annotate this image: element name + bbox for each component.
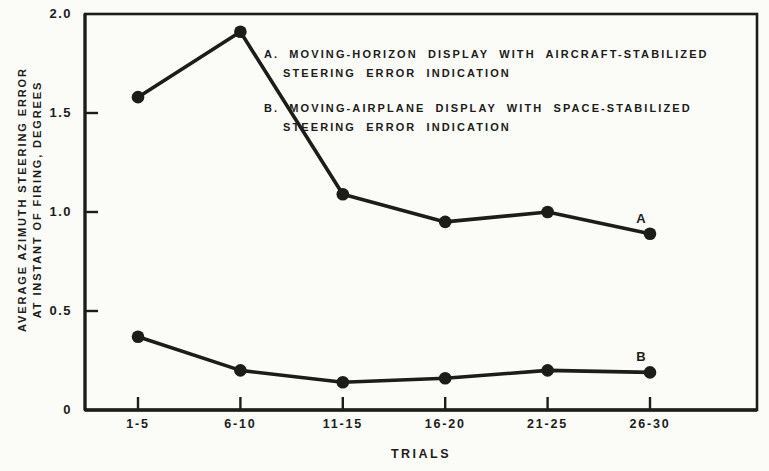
series-a-label: A [636, 211, 646, 226]
y-tick-label: 0 [28, 402, 72, 418]
x-tick-label: 1-5 [93, 417, 183, 432]
series-b-label: B [636, 349, 645, 364]
series-b-point [132, 330, 145, 343]
y-tick-label: 1.0 [28, 204, 72, 220]
x-tick-label: 26-30 [605, 417, 695, 432]
x-tick-label: 16-20 [400, 417, 490, 432]
y-tick-label: 2.0 [28, 6, 72, 22]
series-b-point [644, 366, 657, 379]
series-a-point [132, 91, 145, 104]
x-tick-label: 6-10 [195, 417, 285, 432]
legend-entry-a: A. MOVING-HORIZON DISPLAY WITH AIRCRAFT-… [264, 45, 756, 82]
y-tick-label: 1.5 [28, 105, 72, 121]
y-axis-title-line1: AVERAGE AZIMUTH STEERING ERROR [15, 30, 30, 370]
x-tick-label: 11-15 [298, 417, 388, 432]
y-tick-label: 0.5 [28, 303, 72, 319]
series-b-point [439, 372, 452, 385]
legend-entry-b: B. MOVING-AIRPLANE DISPLAY WITH SPACE-ST… [264, 99, 756, 136]
x-axis-title: TRIALS [341, 447, 501, 461]
chart-figure: AB AVERAGE AZIMUTH STEERING ERROR AT INS… [0, 0, 769, 471]
series-b-point [337, 376, 350, 389]
series-b-line [138, 337, 650, 383]
x-tick-label: 21-25 [503, 417, 593, 432]
series-b-point [541, 364, 554, 377]
series-a-point [234, 26, 247, 39]
series-a-point [541, 206, 554, 219]
series-a-point [644, 227, 657, 240]
series-a-point [337, 188, 350, 201]
legend: A. MOVING-HORIZON DISPLAY WITH AIRCRAFT-… [264, 45, 756, 153]
series-a-point [439, 216, 452, 229]
series-b-point [234, 364, 247, 377]
